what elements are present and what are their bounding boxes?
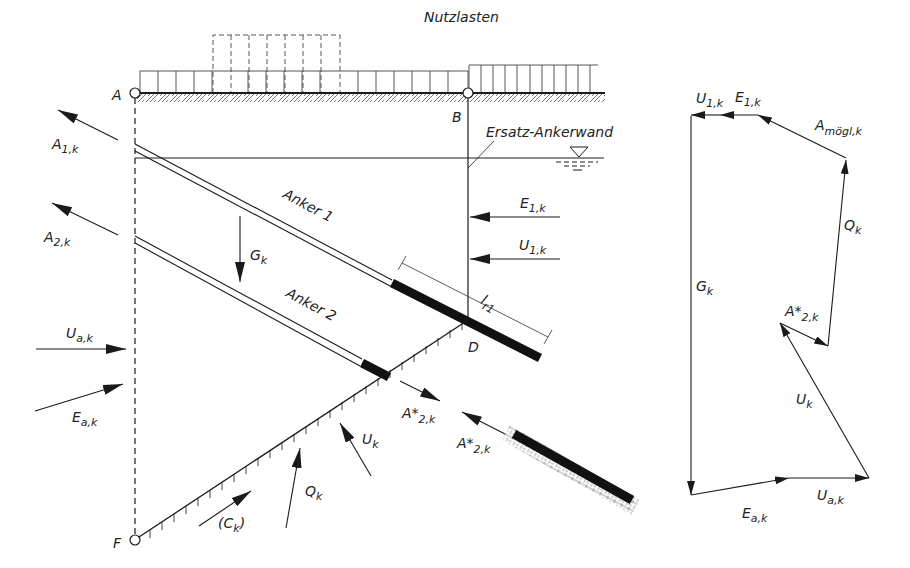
label-a2star-1: A*2,k	[401, 405, 436, 426]
label-ck: (Ck)	[218, 515, 245, 535]
label-qk: Qk	[305, 483, 323, 503]
point-b-label: B	[452, 109, 462, 125]
anker2-label: Anker 2	[283, 284, 339, 324]
nutzlasten-title: Nutzlasten	[424, 9, 499, 25]
point-a-hinge	[130, 88, 140, 98]
anchor-stability-diagram: Nutzlasten Ersatz-Ankerwand A B D F Anke…	[0, 0, 910, 568]
label-gk: Gk	[250, 247, 268, 267]
point-f-hinge	[130, 535, 140, 545]
force-arrows	[35, 110, 560, 528]
polygon-label-amoegl: Amögl,k	[814, 117, 863, 138]
polygon-label-uak: Ua,k	[817, 487, 844, 507]
force-a2k-arrow	[52, 203, 118, 235]
label-e1k: E1,k	[520, 195, 546, 215]
force-eak-arrow	[35, 384, 123, 411]
lr1-label: lr1	[477, 292, 500, 317]
label-uk: Uk	[362, 431, 379, 451]
label-u1k: U1,k	[519, 237, 547, 257]
polygon-label-e1k: E1,k	[735, 89, 761, 109]
point-a-label: A	[111, 87, 122, 103]
point-d-label: D	[468, 339, 479, 355]
force-polygon	[691, 115, 869, 495]
anchor-1	[135, 144, 540, 358]
ersatz-ankerwand-leader	[468, 141, 494, 168]
diagram-canvas: Nutzlasten Ersatz-Ankerwand A B D F Anke…	[0, 0, 910, 568]
ersatz-ankerwand-label: Ersatz-Ankerwand	[486, 124, 613, 140]
point-f-label: F	[113, 535, 122, 551]
polygon-label-uk: Uk	[796, 391, 813, 411]
deep-slip-line	[139, 320, 468, 538]
polygon-qk	[828, 160, 846, 346]
force-a2star-arrow-1	[400, 381, 440, 401]
anker1-label: Anker 1	[280, 185, 336, 225]
polygon-label-qk: Qk	[844, 217, 862, 237]
point-b-hinge	[463, 88, 473, 98]
polygon-uk	[780, 323, 869, 478]
polygon-label-u1k: U1,k	[696, 90, 724, 110]
force-a2star-arrow-2	[462, 412, 505, 434]
polygon-eak	[691, 478, 789, 495]
polygon-label-eak: Ea,k	[742, 505, 768, 525]
label-a2k: A2,k	[43, 229, 71, 249]
anchor-2-grout-body	[502, 425, 640, 515]
label-a2star-2: A*2,k	[456, 435, 491, 456]
polygon-label-gk: Gk	[696, 278, 714, 298]
force-a1k-arrow	[58, 110, 118, 140]
label-uak: Ua,k	[66, 325, 93, 345]
surcharge-loads	[140, 35, 598, 93]
ground-surface	[137, 93, 605, 102]
label-eak: Ea,k	[72, 409, 98, 429]
force-qk-arrow	[286, 448, 300, 528]
label-a1k: A1,k	[51, 136, 79, 156]
water-level	[135, 147, 604, 170]
polygon-label-a2star: A*2,k	[784, 303, 819, 324]
